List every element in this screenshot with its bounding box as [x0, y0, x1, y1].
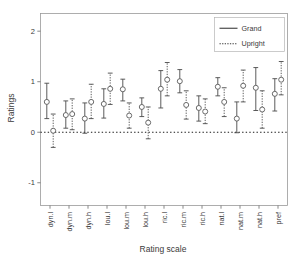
errorbar-point — [260, 91, 265, 128]
errorbar-point — [101, 89, 106, 118]
y-tick-label: 2 — [31, 27, 35, 36]
x-tick-label-nat-m: nat.m — [236, 212, 245, 230]
x-tick-label-lou-h: lou.h — [141, 212, 150, 228]
x-tick-label-nat-l: nat.l — [217, 212, 226, 226]
errorbar-point — [253, 68, 258, 111]
x-tick-label-pref: pref — [274, 212, 283, 224]
errorbar-point — [279, 62, 284, 95]
errorbar-point — [165, 63, 170, 96]
series-grand — [44, 68, 277, 134]
ratings-errorbar-chart: -1012 dyn.ldyn.mdyn.hlou.llou.mlou.hric.… — [0, 0, 293, 262]
errorbar-point — [44, 83, 49, 118]
legend-label-grand: Grand — [242, 24, 262, 33]
x-axis: dyn.ldyn.mdyn.hlou.llou.mlou.hric.lric.m… — [46, 206, 283, 232]
data-point-marker — [108, 86, 113, 91]
data-point-marker — [222, 99, 227, 104]
errorbar-point — [203, 99, 208, 124]
x-tick-label-ric-m: ric.m — [179, 212, 188, 228]
chart-figure: -1012 dyn.ldyn.mdyn.hlou.llou.mlou.hric.… — [0, 0, 293, 262]
data-point-marker — [165, 77, 170, 82]
errorbar-point — [272, 79, 277, 111]
data-point-marker — [89, 99, 94, 104]
errorbar-point — [184, 91, 189, 119]
data-point-marker — [196, 105, 201, 110]
x-tick-label-ric-l: ric.l — [160, 212, 169, 224]
errorbar-point — [70, 99, 75, 130]
data-point-marker — [260, 107, 265, 112]
errorbar-point — [108, 73, 113, 104]
data-point-marker — [101, 101, 106, 106]
data-point-marker — [253, 85, 258, 90]
data-point-marker — [241, 83, 246, 88]
data-point-marker — [44, 99, 49, 104]
x-tick-label-dyn-l: dyn.l — [46, 212, 55, 228]
data-point-marker — [146, 120, 151, 125]
data-point-marker — [272, 91, 277, 96]
data-point-marker — [279, 77, 284, 82]
data-point-marker — [215, 84, 220, 89]
x-tick-label-lou-l: lou.l — [103, 212, 112, 226]
data-point-marker — [82, 116, 87, 121]
y-tick-label: 0 — [31, 128, 35, 137]
data-point-marker — [184, 102, 189, 107]
errorbar-point — [51, 114, 56, 147]
data-point-marker — [139, 104, 144, 109]
y-axis: -1012 — [28, 27, 40, 188]
y-axis-title: Ratings — [6, 94, 16, 123]
errorbar-point — [234, 102, 239, 133]
errorbar-point — [177, 70, 182, 93]
data-point-marker — [120, 87, 125, 92]
data-point-marker — [177, 79, 182, 84]
x-tick-label-ric-h: ric.h — [198, 212, 207, 226]
errorbar-point — [89, 84, 94, 118]
y-tick-label: 1 — [31, 77, 35, 86]
errorbar-point — [146, 107, 151, 139]
data-series-group — [44, 62, 283, 148]
legend-label-upright: Upright — [242, 39, 265, 48]
series-upright — [51, 62, 284, 148]
data-point-marker — [158, 86, 163, 91]
errorbar-point — [158, 71, 163, 108]
errorbar-point — [120, 79, 125, 101]
y-tick-label: -1 — [28, 178, 35, 187]
data-point-marker — [127, 113, 132, 118]
data-point-marker — [63, 113, 68, 118]
errorbar-point — [63, 101, 68, 128]
errorbar-point — [222, 88, 227, 117]
errorbar-point — [139, 98, 144, 117]
errorbar-point — [241, 70, 246, 102]
data-point-marker — [203, 109, 208, 114]
errorbar-point — [215, 78, 220, 96]
x-tick-label-dyn-m: dyn.m — [65, 212, 74, 232]
chart-legend: GrandUpright — [215, 18, 285, 52]
data-point-marker — [51, 128, 56, 133]
x-tick-label-nat-h: nat.h — [255, 212, 264, 228]
errorbar-point — [196, 96, 201, 121]
x-tick-label-lou-m: lou.m — [122, 212, 131, 230]
x-tick-label-dyn-h: dyn.h — [84, 212, 93, 230]
x-axis-title: Rating scale — [140, 244, 187, 254]
data-point-marker — [234, 116, 239, 121]
errorbar-point — [127, 103, 132, 128]
data-point-marker — [70, 112, 75, 117]
errorbar-point — [82, 103, 87, 133]
